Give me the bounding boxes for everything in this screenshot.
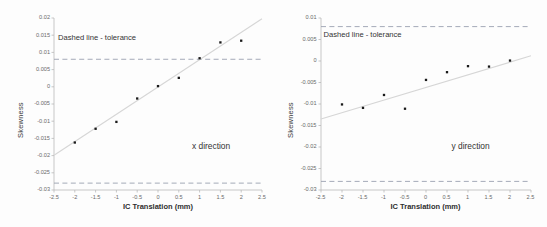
x-tick-label: 2.5 [250, 194, 274, 200]
y-tick-label: 0.01 [279, 14, 317, 20]
tolerance-annotation: Dashed line - tolerance [324, 30, 402, 39]
figure-container: Skewness IC Translation (mm) Dashed line… [0, 0, 547, 227]
panel-direction-label: x direction [192, 141, 230, 151]
y-tick-label: 0.015 [12, 32, 50, 38]
y-tick-label: 0.01 [12, 49, 50, 55]
y-tick-label: -0.02 [12, 152, 50, 158]
y-tick-label: -0.005 [12, 100, 50, 106]
x-axis-title: IC Translation (mm) [54, 202, 262, 211]
y-tick-label: -0.015 [12, 135, 50, 141]
y-tick-label: -0.01 [279, 100, 317, 106]
chart-panel-x-direction: Skewness IC Translation (mm) Dashed line… [0, 0, 274, 227]
y-tick-label: -0.01 [12, 118, 50, 124]
y-tick-label: 0 [12, 83, 50, 89]
y-tick-label: -0.03 [12, 186, 50, 192]
y-tick-label: -0.005 [279, 79, 317, 85]
plot-area-y-direction [274, 0, 547, 227]
y-tick-label: -0.025 [12, 169, 50, 175]
chart-panel-y-direction: Skewness IC Translation (mm) Dashed line… [274, 0, 547, 227]
x-tick-label: 2.5 [519, 194, 543, 200]
y-tick-label: -0.025 [279, 165, 317, 171]
tolerance-annotation: Dashed line - tolerance [58, 33, 136, 42]
y-tick-label: -0.015 [279, 122, 317, 128]
y-tick-label: 0.005 [279, 36, 317, 42]
y-tick-label: 0.005 [12, 66, 50, 72]
y-tick-label: -0.02 [279, 143, 317, 149]
y-tick-label: 0.02 [12, 14, 50, 20]
y-axis-title: Skewness [286, 102, 295, 138]
y-tick-label: 0 [279, 57, 317, 63]
x-axis-title: IC Translation (mm) [321, 202, 531, 211]
panel-direction-label: y direction [452, 141, 490, 151]
y-tick-label: -0.03 [279, 186, 317, 192]
